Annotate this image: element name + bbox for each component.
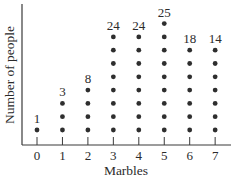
data-dot — [136, 128, 141, 133]
data-dot — [162, 21, 167, 26]
dot-plot-chart: 1382424251814 01234567 Marbles Number of… — [0, 0, 232, 181]
data-dot — [162, 74, 167, 79]
data-dot — [136, 101, 141, 106]
data-dot — [136, 74, 141, 79]
value-label: 24 — [132, 18, 146, 33]
data-dot — [111, 114, 116, 119]
value-label: 14 — [209, 31, 223, 46]
data-dot — [213, 48, 218, 53]
value-label: 1 — [34, 111, 41, 126]
data-dot — [213, 101, 218, 106]
data-dot — [136, 88, 141, 93]
value-label: 24 — [107, 18, 121, 33]
data-dot — [60, 101, 65, 106]
data-dot — [60, 114, 65, 119]
x-tick-label: 4 — [136, 148, 143, 163]
data-dot — [86, 128, 91, 133]
value-labels: 1382424251814 — [34, 5, 222, 126]
data-dot — [187, 48, 192, 53]
data-dot — [162, 128, 167, 133]
value-label: 25 — [158, 5, 171, 20]
data-dot — [111, 61, 116, 66]
data-dot — [213, 61, 218, 66]
value-label: 18 — [183, 31, 196, 46]
value-label: 8 — [85, 71, 92, 86]
data-dot — [187, 88, 192, 93]
x-axis-ticks — [37, 137, 215, 145]
data-dot — [86, 114, 91, 119]
x-tick-label: 6 — [186, 148, 193, 163]
data-dot — [111, 48, 116, 53]
data-dot — [136, 35, 141, 40]
data-dot — [187, 74, 192, 79]
x-tick-labels: 01234567 — [34, 148, 219, 163]
data-dot — [213, 88, 218, 93]
data-dot — [187, 61, 192, 66]
x-axis-label: Marbles — [104, 163, 148, 178]
data-dot — [111, 101, 116, 106]
data-dot — [111, 128, 116, 133]
data-dot — [213, 114, 218, 119]
data-dot — [162, 35, 167, 40]
y-axis-label: Number of people — [2, 26, 17, 124]
data-dot — [187, 101, 192, 106]
x-tick-label: 5 — [161, 148, 168, 163]
data-dot — [136, 48, 141, 53]
data-dot — [86, 88, 91, 93]
x-tick-label: 2 — [85, 148, 92, 163]
data-dot — [35, 128, 40, 133]
x-tick-label: 0 — [34, 148, 41, 163]
data-dot — [111, 35, 116, 40]
data-dot — [213, 128, 218, 133]
data-dot — [162, 61, 167, 66]
x-tick-label: 7 — [212, 148, 219, 163]
data-dot — [111, 74, 116, 79]
data-dot — [187, 128, 192, 133]
data-dot — [187, 114, 192, 119]
data-dot — [86, 101, 91, 106]
x-tick-label: 1 — [59, 148, 66, 163]
data-dot — [111, 88, 116, 93]
value-label: 3 — [59, 84, 66, 99]
data-dot — [162, 48, 167, 53]
data-dot — [136, 61, 141, 66]
x-tick-label: 3 — [110, 148, 117, 163]
data-dot — [162, 114, 167, 119]
data-dot — [162, 101, 167, 106]
data-dot — [136, 114, 141, 119]
data-dot — [213, 74, 218, 79]
data-dot — [60, 128, 65, 133]
data-dot — [162, 88, 167, 93]
